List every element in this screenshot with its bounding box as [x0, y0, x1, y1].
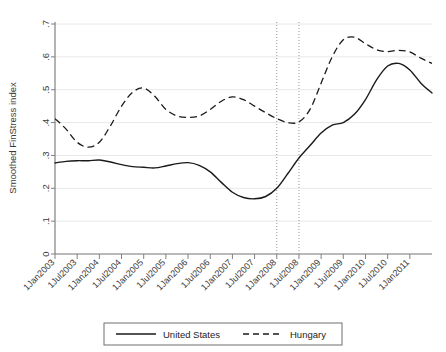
y-tick-label: .4 [40, 119, 51, 127]
legend-label-united-states: United States [163, 329, 220, 340]
finstress-line-chart: Smoothed FinStress index 0.1.2.3.4.5.6.7… [0, 0, 446, 352]
y-tick-label: .3 [40, 151, 51, 159]
y-tick-label: .7 [40, 20, 51, 28]
y-axis-title: Smoothed FinStress index [7, 82, 18, 194]
y-tick-label: .6 [40, 53, 51, 61]
series-line-united-states [55, 63, 432, 199]
y-tick-label: .5 [40, 86, 51, 94]
y-tick-label: .2 [40, 184, 51, 192]
y-tick-label: .1 [40, 217, 51, 225]
series-line-hungary [55, 37, 432, 147]
grid-lines [55, 24, 432, 254]
y-tick-label: 0 [40, 251, 51, 256]
legend-label-hungary: Hungary [290, 329, 326, 340]
x-axis-ticks [55, 254, 410, 259]
chart-figure: Smoothed FinStress index 0.1.2.3.4.5.6.7… [0, 0, 446, 352]
y-axis-tick-labels: 0.1.2.3.4.5.6.7 [40, 20, 51, 257]
x-axis-tick-labels: 1Jan20031Jul20031Jan20041Jul20041Jan2005… [21, 257, 411, 292]
